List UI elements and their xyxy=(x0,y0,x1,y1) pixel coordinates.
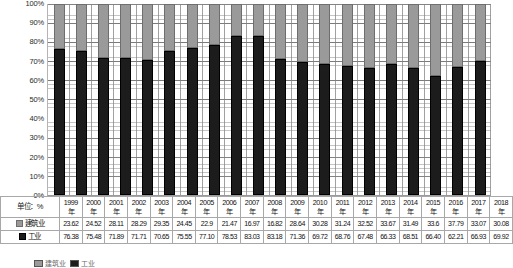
bar-segment-industry xyxy=(54,49,65,195)
row-label-construction: 建筑业 xyxy=(1,218,60,231)
y-axis-tick-label: 100% xyxy=(26,0,44,8)
bar-segment-construction xyxy=(319,4,330,64)
bar-segment-construction xyxy=(209,4,220,45)
table-cell-industry: 83.03 xyxy=(241,231,264,244)
table-header-year: 2015年 xyxy=(422,197,445,218)
bar-segment-industry xyxy=(187,48,198,195)
bar-slot xyxy=(425,4,447,195)
stacked-bar[interactable] xyxy=(98,4,109,195)
table-header-year: 2000年 xyxy=(82,197,105,218)
table-cell-construction: 22.9 xyxy=(195,218,218,231)
stacked-bar[interactable] xyxy=(209,4,220,195)
bar-segment-construction xyxy=(386,4,397,64)
legend-label: 工业 xyxy=(81,258,95,268)
bar-segment-industry xyxy=(364,68,375,195)
bar-slot xyxy=(292,4,314,195)
table-header-year: 2003年 xyxy=(150,197,173,218)
bar-slot xyxy=(48,4,70,195)
table-cell-construction: 23.62 xyxy=(60,218,83,231)
bar-slot xyxy=(181,4,203,195)
bar-segment-industry xyxy=(142,60,153,195)
bar-segment-industry xyxy=(76,51,87,195)
bar-segment-construction xyxy=(164,4,175,51)
table-header-year: 2017年 xyxy=(467,197,490,218)
stacked-bar[interactable] xyxy=(142,4,153,195)
stacked-bar[interactable] xyxy=(364,4,375,195)
table-cell-industry: 78.53 xyxy=(218,231,241,244)
y-axis-tick-label: 10% xyxy=(30,173,44,181)
table-cell-industry: 68.51 xyxy=(399,231,422,244)
stacked-bar[interactable] xyxy=(319,4,330,195)
y-axis: 100%90%80%70%60%50%40%30%20%10%0% xyxy=(0,4,47,196)
bar-segment-construction xyxy=(120,4,131,58)
unit-label: 单位：% xyxy=(1,197,60,218)
stacked-bar[interactable] xyxy=(76,4,87,195)
legend-swatch-icon xyxy=(34,260,43,267)
stacked-bar[interactable] xyxy=(54,4,65,195)
bar-slot xyxy=(403,4,425,195)
table-cell-industry: 71.71 xyxy=(127,231,150,244)
stacked-bar[interactable] xyxy=(452,4,463,195)
table-cell-construction: 32.52 xyxy=(354,218,377,231)
legend-item[interactable]: 工业 xyxy=(70,258,95,268)
bar-segment-construction xyxy=(76,4,87,51)
table-cell-construction: 33.67 xyxy=(376,218,399,231)
stacked-bar[interactable] xyxy=(475,4,486,195)
table-cell-construction: 31.49 xyxy=(399,218,422,231)
table-cell-construction: 16.82 xyxy=(263,218,286,231)
table-cell-construction: 21.47 xyxy=(218,218,241,231)
bar-slot xyxy=(270,4,292,195)
table-cell-industry: 66.93 xyxy=(467,231,490,244)
bar-segment-industry xyxy=(319,64,330,195)
bar-slot xyxy=(247,4,269,195)
table-cell-construction: 33.07 xyxy=(467,218,490,231)
legend-swatch-icon xyxy=(70,260,79,267)
stacked-bar[interactable] xyxy=(430,4,441,195)
swatch-industry-icon xyxy=(19,233,26,240)
bar-segment-industry xyxy=(430,76,441,195)
stacked-bar[interactable] xyxy=(408,4,419,195)
bar-slot xyxy=(92,4,114,195)
table-header-year: 2013年 xyxy=(376,197,399,218)
stacked-bar[interactable] xyxy=(386,4,397,195)
bar-segment-construction xyxy=(54,4,65,49)
bar-segment-construction xyxy=(364,4,375,68)
table-header-year: 2018年 xyxy=(490,197,513,218)
table-cell-industry: 62.21 xyxy=(444,231,467,244)
stacked-bar[interactable] xyxy=(297,4,308,195)
table-row: 工业 76.3875.4871.8971.7170.6575.5577.1078… xyxy=(1,231,513,244)
bar-segment-construction xyxy=(253,4,264,36)
table-header-year: 2012年 xyxy=(354,197,377,218)
legend-item[interactable]: 建筑业 xyxy=(34,258,66,268)
bar-segment-construction xyxy=(142,4,153,60)
table-cell-industry: 75.48 xyxy=(82,231,105,244)
y-axis-tick-label: 40% xyxy=(30,115,44,123)
stacked-bar[interactable] xyxy=(342,4,353,195)
stacked-bar[interactable] xyxy=(164,4,175,195)
stacked-bar[interactable] xyxy=(187,4,198,195)
bar-slot xyxy=(358,4,380,195)
table-header-year: 2011年 xyxy=(331,197,354,218)
bar-segment-construction xyxy=(408,4,419,68)
bar-segment-industry xyxy=(164,51,175,195)
bar-segment-industry xyxy=(342,66,353,195)
bar-segment-industry xyxy=(231,36,242,195)
table-header-year: 1999年 xyxy=(60,197,83,218)
bar-segment-construction xyxy=(297,4,308,62)
table-header-year: 2005年 xyxy=(195,197,218,218)
stacked-bar[interactable] xyxy=(231,4,242,195)
table-cell-industry: 71.89 xyxy=(105,231,128,244)
table-cell-construction: 28.64 xyxy=(286,218,309,231)
y-axis-tick-label: 20% xyxy=(30,154,44,162)
chart-legend: 建筑业工业 xyxy=(34,258,95,268)
bar-segment-industry xyxy=(120,58,131,195)
bar-group xyxy=(48,4,491,195)
stacked-bar[interactable] xyxy=(275,4,286,195)
table-cell-construction: 28.11 xyxy=(105,218,128,231)
bar-slot xyxy=(137,4,159,195)
bar-slot xyxy=(380,4,402,195)
stacked-bar[interactable] xyxy=(253,4,264,195)
stacked-bar[interactable] xyxy=(120,4,131,195)
bar-segment-industry xyxy=(275,59,286,195)
